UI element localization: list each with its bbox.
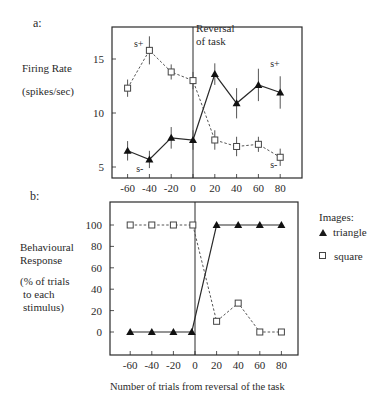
open-square-icon — [168, 69, 174, 75]
annotation: s+ — [270, 58, 280, 69]
y-tick-label: 60 — [91, 262, 103, 274]
filled-triangle-icon — [167, 134, 175, 141]
open-square-icon — [190, 78, 196, 84]
x-tick-label: 20 — [209, 182, 221, 194]
filled-triangle-icon — [211, 70, 219, 77]
open-square-icon — [257, 329, 263, 335]
charts-canvas: -60-40-2002040608051015Reversalof tasks+… — [0, 0, 383, 398]
y-tick-label: 0 — [97, 326, 103, 338]
open-square-icon — [212, 137, 218, 143]
open-square-icon — [127, 222, 133, 228]
x-tick-label: -20 — [164, 182, 179, 194]
x-tick-label: 80 — [276, 359, 288, 371]
x-tick-label: -40 — [142, 182, 157, 194]
y-tick-label: 20 — [91, 305, 103, 317]
y-tick-label: 80 — [91, 240, 103, 252]
x-tick-label: 20 — [211, 359, 223, 371]
panel-a-chart: -60-40-2002040608051015Reversalof tasks+… — [93, 22, 302, 194]
x-tick-label: -60 — [123, 359, 138, 371]
open-square-icon — [170, 222, 176, 228]
open-square-icon — [125, 85, 131, 91]
x-tick-label: 40 — [231, 182, 243, 194]
x-tick-label: 0 — [190, 182, 196, 194]
filled-triangle-icon — [254, 81, 262, 88]
open-square-icon — [190, 222, 196, 228]
x-tick-label: 0 — [192, 359, 198, 371]
filled-triangle-icon — [124, 147, 132, 154]
x-tick-label: -20 — [166, 359, 181, 371]
open-square-icon — [277, 154, 283, 160]
open-square-icon — [278, 329, 284, 335]
panel-b-chart: -60-40-20020406080020406080100 — [86, 202, 299, 371]
open-square-icon — [234, 143, 240, 149]
annotation: s- — [136, 163, 143, 174]
annotation: of task — [196, 35, 226, 47]
open-square-icon — [149, 222, 155, 228]
x-tick-label: 60 — [253, 182, 265, 194]
y-tick-label: 40 — [91, 283, 103, 295]
x-tick-label: -60 — [120, 182, 135, 194]
annotation: Reversal — [196, 22, 234, 34]
annotation: s- — [270, 159, 277, 170]
open-square-icon — [214, 318, 220, 324]
series-line-square — [130, 225, 281, 332]
x-tick-label: -40 — [144, 359, 159, 371]
open-square-icon — [255, 141, 261, 147]
y-tick-label: 5 — [99, 161, 105, 173]
annotation: s+ — [134, 38, 144, 49]
x-tick-label: 60 — [254, 359, 266, 371]
y-tick-label: 100 — [86, 219, 103, 231]
y-tick-label: 10 — [93, 107, 105, 119]
open-square-icon — [235, 300, 241, 306]
x-tick-label: 40 — [233, 359, 245, 371]
y-tick-label: 15 — [93, 53, 105, 65]
open-square-icon — [146, 47, 152, 53]
x-tick-label: 80 — [275, 182, 287, 194]
